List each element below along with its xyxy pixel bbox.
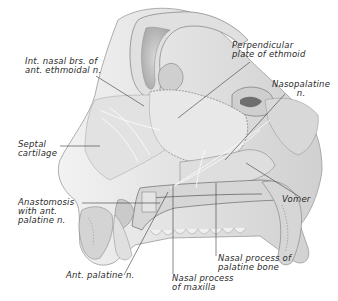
label-nasopalatine: Nasopalatine n. [272, 80, 330, 98]
label-perpendicular-plate: Perpendicular plate of ethmoid [232, 41, 306, 59]
nasal-septum-illustration: Int. nasal brs. of ant. ethmoidal n. Per… [0, 0, 338, 301]
label-line: ant. ethmoidal n. [25, 66, 101, 75]
label-nasal-process-palatine: Nasal process of palatine bone [218, 254, 291, 272]
label-septal-cartilage: Septal cartilage [18, 140, 57, 158]
label-line: n. [272, 89, 330, 98]
label-vomer: Vomer [282, 195, 311, 204]
label-ant-palatine: Ant. palatine n. [66, 271, 134, 280]
label-line: palatine n. [18, 216, 74, 225]
label-line: palatine bone [218, 263, 291, 272]
label-int-nasal-brs: Int. nasal brs. of ant. ethmoidal n. [25, 57, 101, 75]
label-line: cartilage [18, 149, 57, 158]
label-line: Ant. palatine n. [66, 271, 134, 280]
label-line: plate of ethmoid [232, 50, 306, 59]
label-nasal-process-maxilla: Nasal process of maxilla [172, 274, 234, 292]
label-line: of maxilla [172, 283, 234, 292]
label-line: Vomer [282, 195, 311, 204]
label-anastomosis: Anastomosis with ant. palatine n. [18, 198, 74, 225]
